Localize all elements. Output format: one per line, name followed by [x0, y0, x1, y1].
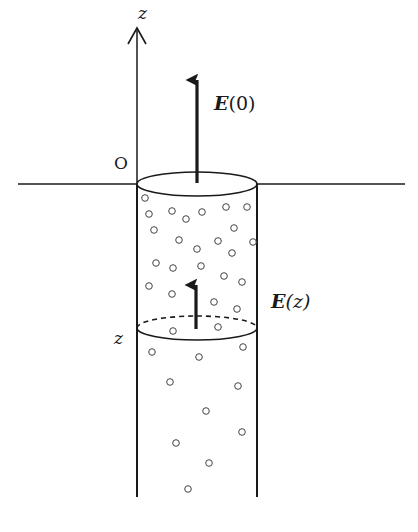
particle-icon — [240, 344, 247, 351]
particle-icon — [146, 211, 153, 218]
particle-icon — [211, 299, 218, 306]
particle-icon — [221, 273, 228, 280]
particle-icon — [146, 283, 153, 290]
particle-icon — [244, 204, 251, 211]
particle-icon — [215, 324, 222, 331]
particle-icon — [142, 195, 149, 202]
particle-icon — [176, 237, 183, 244]
particle-icon — [170, 328, 177, 335]
particle-icon — [231, 225, 238, 232]
plane-wave-cylinder-diagram: z O E(0) E(z) z — [0, 0, 418, 532]
particle-icon — [215, 238, 222, 245]
particle-icon — [183, 216, 190, 223]
particle-icon — [153, 260, 160, 267]
particle-icon — [149, 349, 156, 356]
particle-icon — [151, 227, 158, 234]
particle-icon — [194, 246, 201, 253]
particle-icon — [203, 408, 210, 415]
particle-icon — [239, 429, 246, 436]
z-axis — [128, 28, 146, 184]
particle-icon — [185, 486, 192, 493]
particle-icon — [199, 209, 206, 216]
z-axis-label: z — [137, 3, 148, 23]
particle-icon — [169, 291, 176, 298]
particle-icon — [167, 379, 174, 386]
particle-icon — [173, 440, 180, 447]
field-top-label: E(0) — [213, 92, 255, 114]
particle-icon — [239, 279, 246, 286]
particle-icon — [234, 306, 241, 313]
field-top-symbol: E — [213, 92, 229, 114]
depth-ellipse-front — [137, 328, 257, 340]
particle-icon — [235, 383, 242, 390]
particle-icon — [250, 239, 257, 246]
particle-icon — [198, 263, 205, 270]
origin-label: O — [114, 153, 128, 173]
field-top-arg: (0) — [228, 92, 255, 114]
particle-icon — [169, 208, 176, 215]
particle-icon — [206, 460, 213, 467]
particle-icon — [223, 204, 230, 211]
depth-marker-label: z — [113, 328, 124, 348]
field-depth-arg: (z) — [285, 290, 310, 312]
particles — [142, 195, 257, 493]
field-depth-symbol: E — [270, 290, 286, 312]
field-depth-label: E(z) — [270, 290, 310, 312]
particle-icon — [196, 354, 203, 361]
particle-icon — [170, 265, 177, 272]
particle-icon — [229, 250, 236, 257]
